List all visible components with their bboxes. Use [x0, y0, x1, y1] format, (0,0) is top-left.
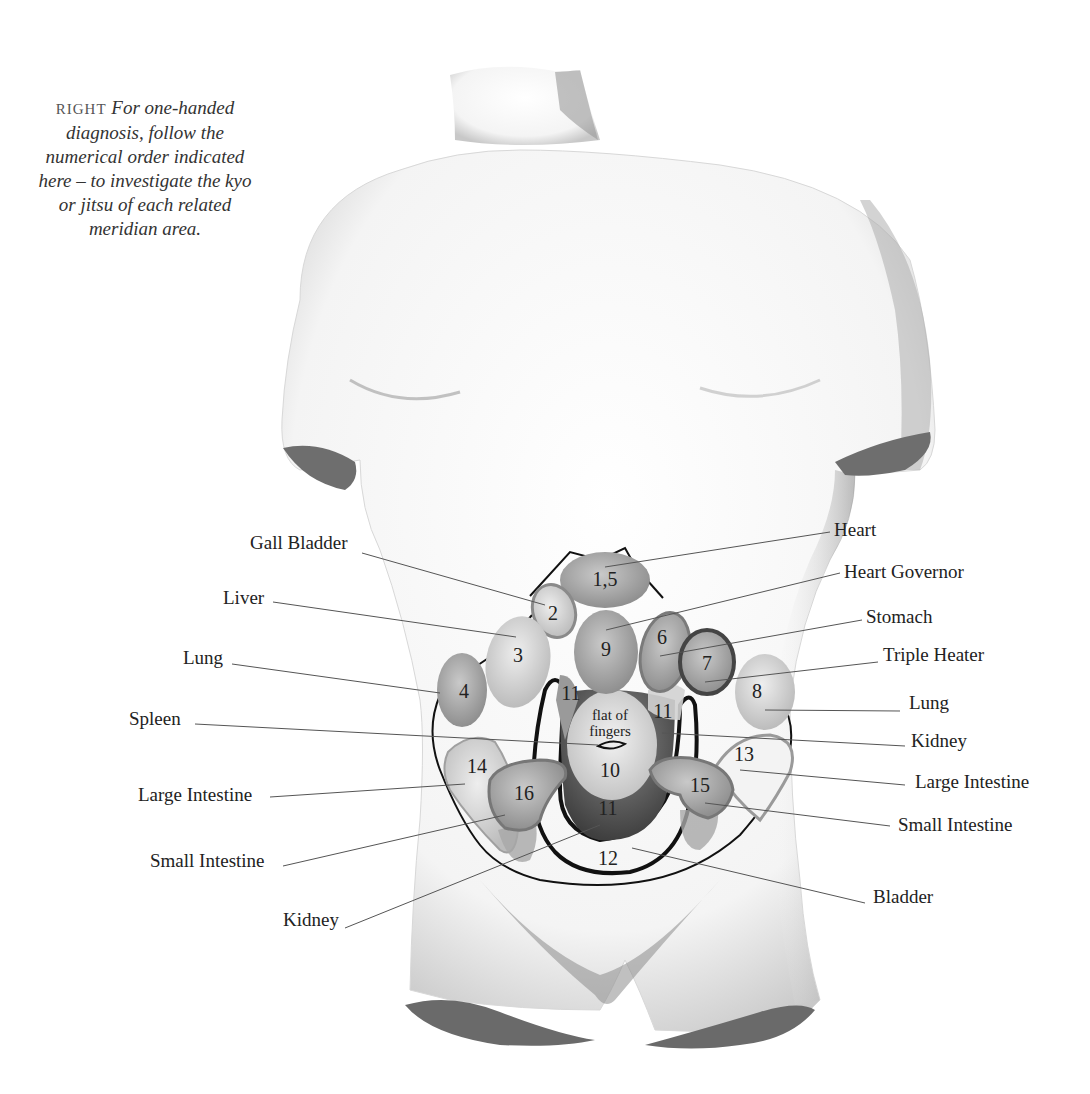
zone-15-number: 15 — [690, 774, 710, 796]
label-stomach: Stomach — [866, 607, 933, 627]
label-heart-governor: Heart Governor — [844, 562, 964, 582]
zone-11-right-number: 11 — [653, 700, 672, 722]
zone-4-number: 4 — [459, 680, 469, 702]
label-kidney-left: Kidney — [283, 910, 339, 930]
label-large-intestine-left: Large Intestine — [138, 785, 252, 805]
label-liver: Liver — [223, 588, 264, 608]
zone-13-number: 13 — [734, 743, 754, 765]
flat-of-label: flat of — [592, 707, 628, 723]
zone-11-left-number: 11 — [561, 682, 580, 704]
zone-8[interactable] — [735, 654, 795, 730]
label-gall-bladder: Gall Bladder — [250, 533, 348, 553]
label-small-intestine-left: Small Intestine — [150, 851, 265, 871]
label-kidney-right: Kidney — [911, 731, 967, 751]
zone-1-5-number: 1,5 — [593, 568, 618, 590]
zone-11-bottom-number: 11 — [598, 797, 617, 819]
label-lung-right: Lung — [909, 693, 949, 713]
label-large-intestine-right: Large Intestine — [915, 772, 1029, 792]
zone-3-number: 3 — [513, 644, 523, 666]
zone-2-number: 2 — [548, 602, 558, 624]
torso-diagram: 1,5 2 3 4 9 6 7 8 11 11 flat of fingers … — [0, 0, 1090, 1094]
zone-14-number: 14 — [467, 755, 487, 777]
label-lung-left: Lung — [183, 648, 223, 668]
fingers-label: fingers — [589, 723, 631, 739]
label-triple-heater: Triple Heater — [883, 645, 984, 665]
zone-10-number: 10 — [600, 759, 620, 781]
zone-7-number: 7 — [702, 652, 712, 674]
zone-9-number: 9 — [601, 638, 611, 660]
label-bladder: Bladder — [873, 887, 933, 907]
label-spleen: Spleen — [129, 709, 181, 729]
zone-8-number: 8 — [752, 680, 762, 702]
zone-12-number: 12 — [598, 847, 618, 869]
zone-16-number: 16 — [514, 782, 534, 804]
label-small-intestine-right: Small Intestine — [898, 815, 1013, 835]
label-heart: Heart — [834, 520, 876, 540]
zone-6-number: 6 — [657, 626, 667, 648]
